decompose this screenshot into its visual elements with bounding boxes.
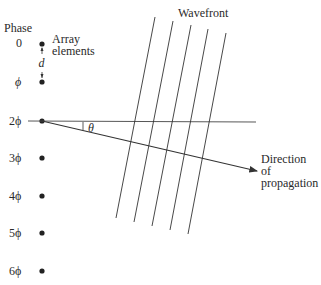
theta-label: θ <box>88 121 94 135</box>
phase-label-5: 5ϕ <box>9 226 21 240</box>
phase-header: Phase <box>4 21 32 35</box>
phase-label-4: 4ϕ <box>9 189 21 203</box>
angle-marker: θ <box>83 121 94 135</box>
spacing-label: d <box>39 56 46 70</box>
array-element-dot <box>39 41 44 46</box>
phase-label-3: 3ϕ <box>9 151 21 165</box>
reference-line <box>28 121 256 122</box>
array-elements-label-line2: elements <box>52 44 95 58</box>
wavefront-line <box>170 29 208 230</box>
array-element-dot <box>39 79 44 84</box>
phased-array-diagram: Phase 0 ϕ 2ϕ 3ϕ 4ϕ 5ϕ 6ϕ Array elements … <box>0 0 321 285</box>
propagation-arrow <box>42 121 257 171</box>
array-element-dot <box>39 155 44 160</box>
array-element-dot <box>39 268 44 273</box>
wavefront-label: Wavefront <box>178 6 229 20</box>
wavefront-line <box>188 33 226 234</box>
wavefront-line <box>116 17 155 218</box>
array-element-dot <box>39 230 44 235</box>
phase-label-1: ϕ <box>15 75 21 89</box>
wavefront-line <box>152 25 191 226</box>
wavefront-lines <box>116 17 226 234</box>
phase-label-2: 2ϕ <box>9 114 21 128</box>
array-element-dot <box>39 193 44 198</box>
direction-label-line3: propagation <box>261 176 318 190</box>
phase-label-6: 6ϕ <box>9 264 21 278</box>
spacing-dimension: d <box>39 47 46 78</box>
phase-label-0: 0 <box>16 36 22 50</box>
